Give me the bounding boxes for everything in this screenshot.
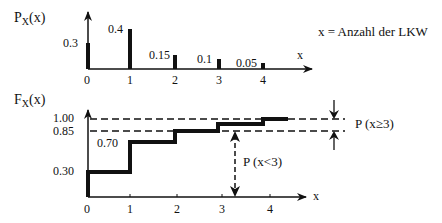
y-tick-0.30: 0.30 — [53, 165, 74, 177]
bottom-x-tick-3: 3 — [219, 203, 225, 215]
y-tick-0.85: 0.85 — [53, 125, 74, 137]
annotation-p-less-3: P (x<3) — [243, 155, 282, 168]
bottom-x-axis-label: x — [313, 190, 319, 202]
bar-0 — [86, 43, 90, 69]
bottom-x-tick-1: 1 — [127, 203, 133, 215]
bar-2 — [173, 55, 177, 69]
step-label-0.70: 0.70 — [97, 137, 118, 149]
p-less-3-arrow — [230, 131, 240, 197]
bar-value-0: 0.3 — [63, 37, 78, 49]
top-x-tick-1: 1 — [127, 74, 133, 86]
top-x-tick-0: 0 — [84, 74, 90, 86]
top-x-axis-label: x — [297, 49, 303, 61]
bar-value-4: 0.05 — [236, 57, 257, 69]
top-y-axis-label: PX(x) — [14, 11, 45, 27]
bottom-x-tick-4: 4 — [267, 203, 273, 215]
legend-note: x = Anzahl der LKW — [318, 25, 428, 38]
bottom-x-tick-0: 0 — [84, 203, 90, 215]
bottom-y-axis-label: FX(x) — [14, 93, 45, 109]
bar-value-3: 0.1 — [197, 53, 212, 65]
bar-value-1: 0.4 — [108, 23, 123, 35]
bar-value-2: 0.15 — [149, 49, 170, 61]
y-tick-1.00: 1.00 — [53, 112, 74, 124]
annotation-p-geq-3: P (x≥3) — [355, 117, 394, 130]
top-x-tick-2: 2 — [172, 74, 178, 86]
top-x-tick-3: 3 — [216, 74, 222, 86]
p-geq-3-arrows — [329, 100, 339, 150]
top-x-tick-4: 4 — [260, 74, 266, 86]
bottom-x-tick-2: 2 — [174, 203, 180, 215]
bar-1 — [128, 29, 132, 69]
bar-3 — [217, 59, 221, 69]
bar-4 — [261, 63, 265, 69]
